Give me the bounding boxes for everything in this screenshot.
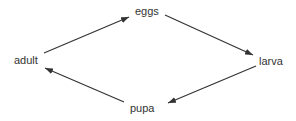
life-cycle-diagram: eggs larva pupa adult — [0, 0, 296, 121]
arrow-pupa-to-adult — [45, 68, 124, 102]
node-adult: adult — [14, 54, 38, 66]
node-larva: larva — [259, 55, 283, 67]
arrow-eggs-to-larva — [165, 15, 253, 55]
node-eggs: eggs — [135, 5, 159, 17]
arrow-larva-to-pupa — [168, 66, 256, 103]
arrow-adult-to-eggs — [44, 17, 129, 53]
node-pupa: pupa — [130, 102, 154, 114]
